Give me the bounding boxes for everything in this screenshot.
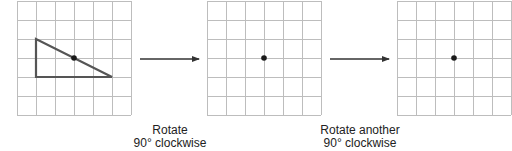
grid-panel-after-second-rotation xyxy=(397,1,512,116)
grid-panel-original xyxy=(17,1,132,116)
grid-panel-after-first-rotation xyxy=(207,1,322,116)
center-of-rotation-dot xyxy=(451,55,457,61)
center-of-rotation-dot xyxy=(261,55,267,61)
caption-second-line2: 90° clockwise xyxy=(290,137,430,150)
caption-first-line2: 90° clockwise xyxy=(100,137,240,150)
caption-second-rotation: Rotate another 90° clockwise xyxy=(290,124,430,150)
center-of-rotation-dot xyxy=(71,55,77,61)
caption-first-rotation: Rotate 90° clockwise xyxy=(100,124,240,150)
rotation-diagram xyxy=(0,0,512,151)
